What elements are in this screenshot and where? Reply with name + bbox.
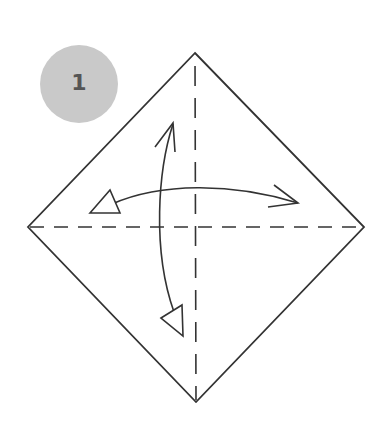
origami-diagram <box>0 0 388 431</box>
vertical-fold-line <box>195 56 196 400</box>
vertical-arrow-curve <box>160 124 174 312</box>
arrow-hollow-head-icon <box>161 305 183 336</box>
vertical-fold-unfold-arrow <box>155 123 183 336</box>
horizontal-arrow-curve <box>112 188 298 204</box>
arrow-hollow-head-icon <box>90 190 120 213</box>
horizontal-fold-unfold-arrow <box>90 185 298 213</box>
